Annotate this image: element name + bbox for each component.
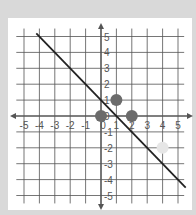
x-tick-label: -4 xyxy=(35,120,44,131)
x-tick-label: -1 xyxy=(81,120,90,131)
x-tick-label: -2 xyxy=(66,120,75,131)
coordinate-plane: -5-4-3-2-112345543210-1-2-3-4-50 xyxy=(0,0,196,215)
x-tick-label: 4 xyxy=(160,120,166,131)
data-point xyxy=(95,110,107,122)
y-axis-down-arrow-icon xyxy=(98,204,104,210)
data-point xyxy=(126,110,138,122)
y-tick-label: -4 xyxy=(104,175,113,186)
y-tick-label: -3 xyxy=(104,159,113,170)
y-tick-label: 2 xyxy=(104,79,110,90)
data-point xyxy=(110,94,122,106)
x-tick-label: 5 xyxy=(175,120,181,131)
y-tick-label: 4 xyxy=(104,47,110,58)
x-tick-label: -5 xyxy=(20,120,29,131)
y-tick-label: 3 xyxy=(104,63,110,74)
x-axis-right-arrow-icon xyxy=(187,113,193,119)
x-axis-left-arrow-icon xyxy=(10,113,16,119)
x-tick-label: 1 xyxy=(114,120,120,131)
y-axis-up-arrow-icon xyxy=(98,23,104,29)
y-tick-label: 5 xyxy=(104,32,110,43)
y-tick-label: -2 xyxy=(104,143,113,154)
x-tick-label: 3 xyxy=(144,120,150,131)
y-tick-label: -5 xyxy=(104,191,113,202)
data-point xyxy=(157,142,169,154)
x-tick-label: -3 xyxy=(50,120,59,131)
